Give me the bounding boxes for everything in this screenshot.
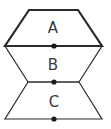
dot-bc [51,79,56,84]
label-c: C [49,93,59,111]
label-b: B [48,56,58,74]
label-a: A [48,19,59,37]
dot-bottom [51,116,56,121]
dot-ab [51,43,56,48]
stacked-trapezoid-diagram: A B C [0,0,111,129]
